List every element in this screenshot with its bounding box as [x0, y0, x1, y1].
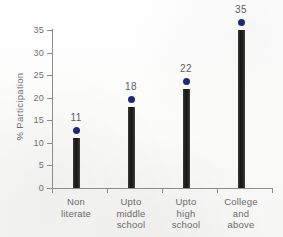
- x-category-line: and: [209, 208, 273, 220]
- bar-college-and-above: [238, 30, 245, 188]
- value-label-upto-high-school: 22: [166, 63, 206, 74]
- y-axis-line: [52, 29, 53, 189]
- y-tick-15: [47, 120, 52, 121]
- x-category-label-college-and-above: College and above: [209, 196, 273, 231]
- bar-upto-high-school: [183, 89, 190, 188]
- y-tick-label-15: 15: [22, 115, 44, 125]
- y-tick-10: [47, 143, 52, 144]
- y-tick-25: [47, 75, 52, 76]
- marker-dot-upto-high-school: [183, 78, 190, 85]
- bar-upto-middle-school: [128, 107, 135, 188]
- y-tick-label-30: 30: [22, 48, 44, 58]
- y-tick-20: [47, 98, 52, 99]
- value-label-college-and-above: 35: [221, 4, 261, 15]
- y-tick-label-5: 5: [22, 160, 44, 170]
- x-category-line: College: [209, 196, 273, 208]
- y-tick-label-35: 35: [22, 25, 44, 35]
- x-tick-boundary-2: [162, 188, 163, 193]
- y-tick-5: [47, 165, 52, 166]
- y-tick-label-10: 10: [22, 138, 44, 148]
- value-label-non-literate: 11: [56, 112, 96, 123]
- x-category-line: above: [209, 219, 273, 231]
- chart-figure: % Participation 0 5 10 15 20 25 30 35 11…: [0, 0, 283, 237]
- y-tick-label-0: 0: [22, 183, 44, 193]
- y-tick-35: [47, 30, 52, 31]
- x-tick-boundary-4: [272, 188, 273, 193]
- y-tick-label-25: 25: [22, 70, 44, 80]
- x-tick-boundary-1: [107, 188, 108, 193]
- y-tick-label-20: 20: [22, 93, 44, 103]
- y-axis-title: % Participation: [14, 47, 25, 167]
- bar-non-literate: [73, 138, 80, 188]
- x-tick-boundary-0: [52, 188, 53, 193]
- value-label-upto-middle-school: 18: [111, 81, 151, 92]
- y-tick-30: [47, 53, 52, 54]
- x-tick-boundary-3: [217, 188, 218, 193]
- marker-dot-non-literate: [73, 127, 80, 134]
- marker-dot-upto-middle-school: [128, 96, 135, 103]
- marker-dot-college-and-above: [238, 19, 245, 26]
